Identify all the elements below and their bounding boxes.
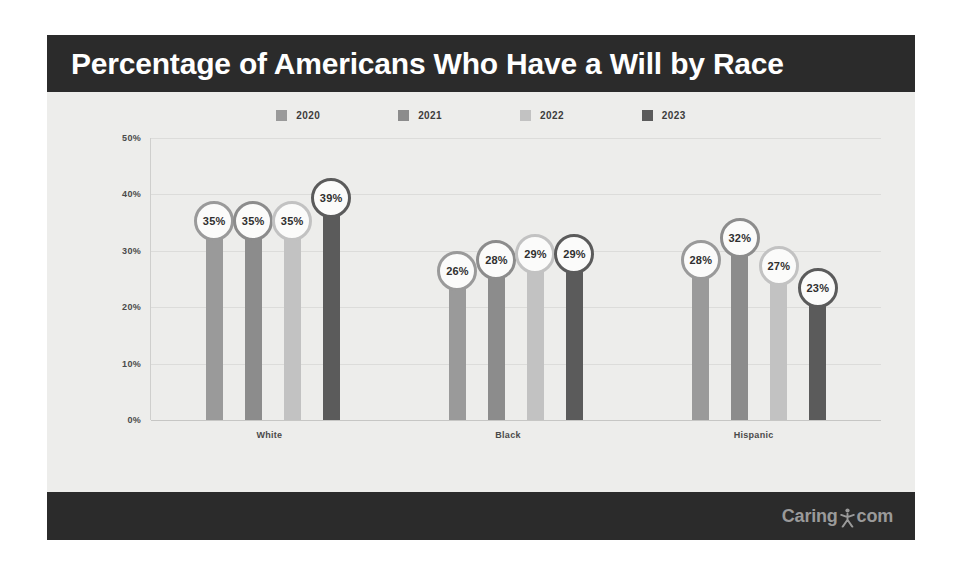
bar-rect (692, 262, 709, 420)
bar-rect (449, 273, 466, 420)
legend-swatch-2022 (520, 110, 531, 121)
value-bubble-hispanic-2020: 28% (681, 240, 721, 280)
y-axis-tick-20%: 20% (122, 302, 141, 312)
value-label: 39% (320, 192, 343, 204)
y-axis-tick-40%: 40% (122, 189, 141, 199)
x-axis-label-black: Black (495, 430, 521, 440)
value-bubble-white-2020: 35% (194, 201, 234, 241)
legend-item-2023[interactable]: 2023 (642, 110, 686, 121)
value-bubble-hispanic-2021: 32% (720, 218, 760, 258)
bar-groups: 35%35%35%39%26%28%29%29%28%32%27%23% (151, 138, 881, 420)
value-bubble-white-2023: 39% (311, 178, 351, 218)
bar-rect (323, 200, 340, 420)
bar-white-2023[interactable]: 39% (323, 138, 340, 420)
value-label: 23% (807, 282, 830, 294)
bar-rect (566, 256, 583, 420)
bar-rect (284, 223, 301, 420)
bar-rect (488, 262, 505, 420)
legend-swatch-2023 (642, 110, 653, 121)
bar-black-2023[interactable]: 29% (566, 138, 583, 420)
value-label: 32% (729, 232, 752, 244)
value-bubble-black-2020: 26% (437, 251, 477, 291)
bar-rect (527, 256, 544, 420)
x-axis-label-white: White (256, 430, 282, 440)
screenshot-root: Percentage of Americans Who Have a Will … (0, 0, 954, 571)
bar-group-black: 26%28%29%29% (449, 138, 583, 420)
value-bubble-white-2021: 35% (233, 201, 273, 241)
bar-rect (809, 290, 826, 420)
y-axis-tick-30%: 30% (122, 246, 141, 256)
value-label: 35% (281, 215, 304, 227)
chart-body: 2020202120222023 0%10%20%30%40%50% 35%35… (47, 92, 915, 492)
person-logo-icon (839, 507, 856, 527)
bar-white-2021[interactable]: 35% (245, 138, 262, 420)
value-bubble-black-2023: 29% (554, 234, 594, 274)
bar-white-2022[interactable]: 35% (284, 138, 301, 420)
legend-item-2020[interactable]: 2020 (276, 110, 320, 121)
chart-card: Percentage of Americans Who Have a Will … (47, 35, 915, 540)
value-label: 28% (485, 254, 508, 266)
value-label: 29% (563, 248, 586, 260)
value-label: 35% (203, 215, 226, 227)
bar-group-hispanic: 28%32%27%23% (692, 138, 826, 420)
plot-wrapper: 0%10%20%30%40%50% 35%35%35%39%26%28%29%2… (47, 138, 915, 488)
brand-name-prefix: Caring (782, 506, 838, 527)
bar-rect (245, 223, 262, 420)
page-title: Percentage of Americans Who Have a Will … (71, 35, 784, 92)
bar-hispanic-2020[interactable]: 28% (692, 138, 709, 420)
y-axis-tick-10%: 10% (122, 359, 141, 369)
legend-item-2021[interactable]: 2021 (398, 110, 442, 121)
value-label: 35% (242, 215, 265, 227)
chart-header-band: Percentage of Americans Who Have a Will … (47, 35, 915, 92)
bar-group-white: 35%35%35%39% (206, 138, 340, 420)
brand-logo: Caring com (782, 506, 893, 527)
legend-label-2021: 2021 (418, 110, 442, 121)
bar-black-2021[interactable]: 28% (488, 138, 505, 420)
bar-rect (731, 240, 748, 420)
y-axis: 0%10%20%30%40%50% (99, 138, 141, 420)
chart-legend: 2020202120222023 (47, 102, 915, 128)
bar-rect (770, 268, 787, 420)
value-bubble-hispanic-2022: 27% (759, 246, 799, 286)
value-bubble-white-2022: 35% (272, 201, 312, 241)
bar-black-2020[interactable]: 26% (449, 138, 466, 420)
bar-hispanic-2022[interactable]: 27% (770, 138, 787, 420)
chart-footer-band: Caring com (47, 492, 915, 540)
value-label: 26% (446, 265, 469, 277)
y-axis-tick-0%: 0% (127, 415, 141, 425)
legend-label-2020: 2020 (296, 110, 320, 121)
plot-area: 35%35%35%39%26%28%29%29%28%32%27%23% (150, 138, 881, 420)
x-axis-label-hispanic: Hispanic (734, 430, 774, 440)
legend-label-2023: 2023 (662, 110, 686, 121)
bar-black-2022[interactable]: 29% (527, 138, 544, 420)
value-bubble-black-2021: 28% (476, 240, 516, 280)
gridline-0% (151, 420, 881, 421)
value-label: 28% (690, 254, 713, 266)
legend-swatch-2020 (276, 110, 287, 121)
bar-white-2020[interactable]: 35% (206, 138, 223, 420)
y-axis-tick-50%: 50% (122, 133, 141, 143)
legend-label-2022: 2022 (540, 110, 564, 121)
legend-item-2022[interactable]: 2022 (520, 110, 564, 121)
brand-name-suffix: com (857, 506, 893, 527)
value-label: 29% (524, 248, 547, 260)
value-bubble-black-2022: 29% (515, 234, 555, 274)
bar-hispanic-2023[interactable]: 23% (809, 138, 826, 420)
legend-swatch-2021 (398, 110, 409, 121)
bar-rect (206, 223, 223, 420)
x-axis-labels: WhiteBlackHispanic (150, 430, 880, 450)
bar-hispanic-2021[interactable]: 32% (731, 138, 748, 420)
value-bubble-hispanic-2023: 23% (798, 268, 838, 308)
value-label: 27% (768, 260, 791, 272)
